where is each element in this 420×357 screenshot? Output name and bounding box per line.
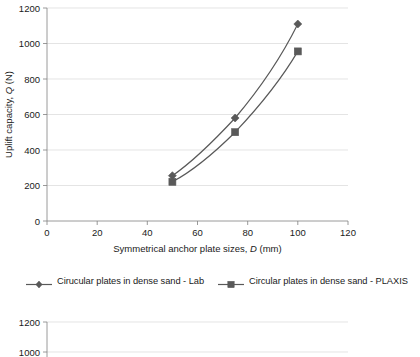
x-tick-label: 0 — [44, 227, 49, 238]
x-tick-label: 120 — [340, 227, 356, 238]
x-tick-label: 100 — [290, 227, 306, 238]
y-tick-label: 200 — [24, 180, 40, 191]
chart2-y-tick-label: 1000 — [19, 347, 40, 357]
series-plaxis-marker — [232, 129, 239, 136]
legend-entry-lab: Cirucular plates in dense sand - Lab — [26, 276, 204, 287]
series-plaxis-marker — [169, 178, 176, 185]
x-tick-marks — [47, 221, 348, 225]
uplift-capacity-chart: 1200 1000 800 600 400 200 0 0 20 40 60 8… — [0, 0, 420, 262]
series-lab-line — [172, 24, 297, 176]
second-chart-partial: 1200 1000 — [0, 300, 420, 357]
y-tick-label: 0 — [35, 216, 40, 227]
y-axis-title-post: (N) — [3, 71, 14, 87]
legend-diamond-marker-icon — [26, 276, 52, 287]
chart-gridlines — [47, 8, 348, 186]
x-tick-label: 80 — [242, 227, 253, 238]
series-lab — [168, 20, 301, 180]
y-tick-marks — [43, 8, 47, 221]
x-axis-title: Symmetrical anchor plate sizes, D (mm) — [113, 243, 281, 254]
x-tick-label: 20 — [92, 227, 103, 238]
x-tick-label: 60 — [192, 227, 203, 238]
legend-label-plaxis: Circular plates in dense sand - PLAXIS — [249, 276, 408, 286]
legend-label-lab: Cirucular plates in dense sand - Lab — [57, 276, 204, 286]
y-axis-title-pre: Uplift capacity, — [3, 94, 14, 158]
x-axis-title-pre: Symmetrical anchor plate sizes, — [113, 243, 250, 254]
y-tick-label: 600 — [24, 109, 40, 120]
legend-square-marker-icon — [218, 276, 244, 287]
x-tick-label: 40 — [142, 227, 153, 238]
y-tick-labels: 1200 1000 800 600 400 200 0 — [19, 3, 40, 227]
y-axis-title: Uplift capacity, Q (N) — [3, 71, 14, 158]
chart-legend: Cirucular plates in dense sand - Lab Cir… — [0, 270, 420, 292]
legend-entry-plaxis: Circular plates in dense sand - PLAXIS — [218, 276, 408, 287]
x-tick-labels: 0 20 40 60 80 100 120 — [44, 227, 356, 238]
y-tick-label: 1000 — [19, 38, 40, 49]
x-axis-title-post: (mm) — [257, 243, 282, 254]
y-tick-label: 800 — [24, 74, 40, 85]
y-tick-label: 400 — [24, 145, 40, 156]
series-lab-marker — [294, 20, 302, 28]
y-tick-label: 1200 — [19, 3, 40, 14]
chart2-y-tick-label: 1200 — [19, 317, 40, 328]
series-plaxis-marker — [294, 48, 301, 55]
